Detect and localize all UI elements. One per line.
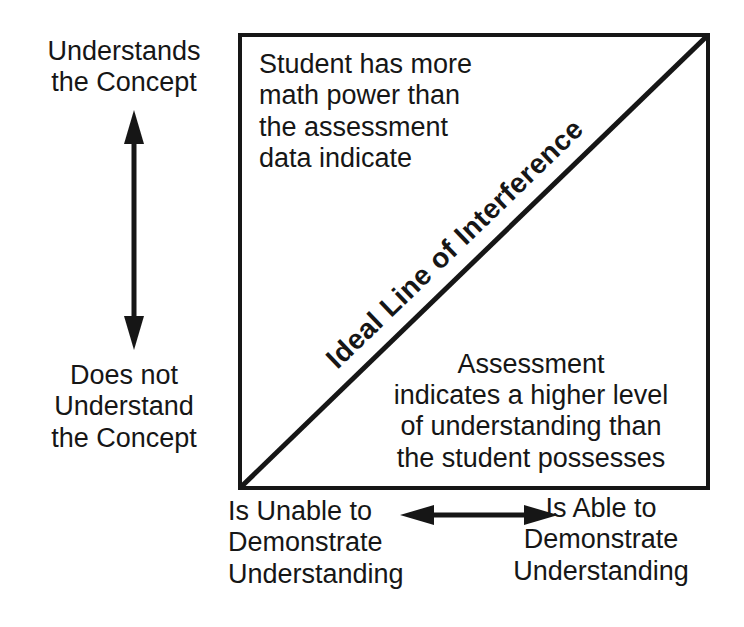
interference-quadrant-diagram: Understands the Concept Does not Underst… <box>0 0 744 627</box>
lower-right-quadrant-text: Assessment indicates a higher level of u… <box>366 349 696 474</box>
y-axis-bottom-label: Does not Understand the Concept <box>12 360 236 454</box>
upper-left-quadrant-text: Student has more math power than the ass… <box>259 49 559 174</box>
y-axis-top-label: Understands the Concept <box>12 36 236 99</box>
x-axis-right-label: Is Able to Demonstrate Understanding <box>494 493 708 587</box>
quadrant-box: Student has more math power than the ass… <box>238 33 710 490</box>
vertical-double-arrow-icon <box>115 108 153 352</box>
